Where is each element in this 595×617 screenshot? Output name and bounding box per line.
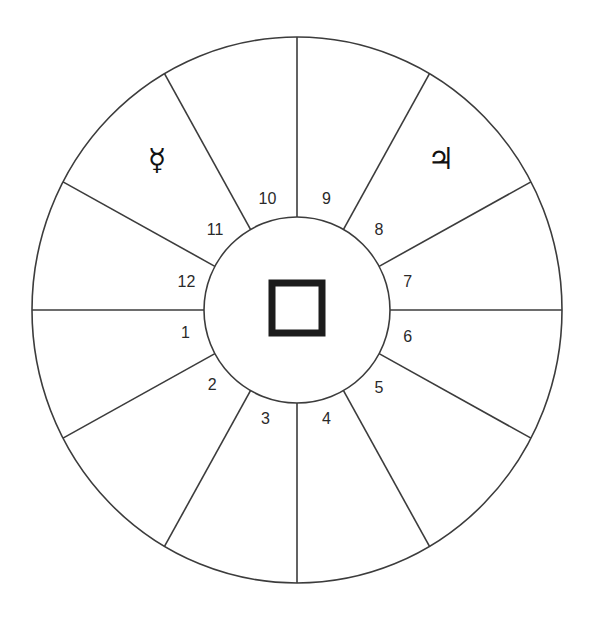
house-cusp-line-11 bbox=[165, 74, 251, 230]
house-number-5: 5 bbox=[375, 379, 384, 396]
house-number-6: 6 bbox=[403, 328, 412, 345]
house-cusp-lines bbox=[32, 37, 562, 583]
house-cusp-line-5 bbox=[344, 391, 430, 547]
house-cusp-line-2 bbox=[63, 354, 215, 439]
house-number-11: 11 bbox=[207, 221, 224, 238]
house-number-7: 7 bbox=[403, 273, 412, 290]
house-number-1: 1 bbox=[181, 324, 190, 341]
house-number-9: 9 bbox=[322, 190, 331, 207]
planet-symbol-labels: ☿♃ bbox=[148, 141, 455, 177]
mercury-symbol-icon: ☿ bbox=[148, 142, 166, 177]
inner-circle bbox=[204, 217, 390, 403]
house-cusp-line-8 bbox=[379, 182, 531, 267]
house-number-12: 12 bbox=[177, 273, 195, 290]
house-cusp-line-9 bbox=[344, 74, 430, 230]
house-number-2: 2 bbox=[208, 376, 217, 393]
jupiter-symbol-icon: ♃ bbox=[428, 141, 455, 176]
house-number-labels: 123456789101112 bbox=[177, 190, 412, 427]
house-number-8: 8 bbox=[375, 221, 384, 238]
house-number-10: 10 bbox=[259, 190, 277, 207]
house-number-3: 3 bbox=[261, 410, 270, 427]
wheel-svg: 123456789101112 ☿♃ bbox=[0, 0, 595, 617]
house-cusp-line-3 bbox=[165, 391, 251, 547]
house-cusp-line-6 bbox=[379, 354, 531, 439]
house-cusp-line-12 bbox=[63, 182, 215, 267]
astrology-chart-wheel: 123456789101112 ☿♃ bbox=[0, 0, 595, 617]
house-number-4: 4 bbox=[322, 410, 331, 427]
center-square-icon bbox=[272, 283, 322, 333]
